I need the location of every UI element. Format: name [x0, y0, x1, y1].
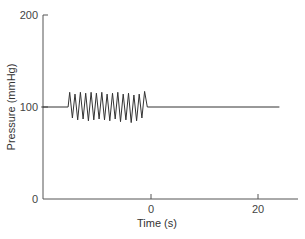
pressure-chart: 200 100 0 Pressure (mmHg) 0 20 Time (s)	[0, 0, 305, 239]
x-tick-label-0: 0	[148, 203, 154, 215]
y-tick-label-200: 200	[20, 9, 38, 21]
pressure-line	[41, 91, 279, 122]
y-tick-label-0: 0	[32, 193, 38, 205]
x-tick-label-20: 20	[252, 203, 264, 215]
x-axis-label: Time (s)	[137, 217, 177, 229]
y-tick-label-100: 100	[20, 101, 38, 113]
x-axis: 0 20 Time (s)	[43, 194, 298, 229]
plot-area	[41, 91, 279, 122]
y-axis-label: Pressure (mmHg)	[5, 64, 17, 151]
